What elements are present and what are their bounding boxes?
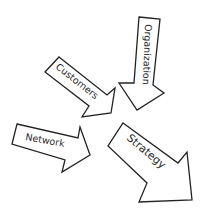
arrow-customers: Customers	[45, 57, 115, 117]
arrow-strategy: Strategy	[108, 123, 192, 202]
arrow-organization-shape	[119, 17, 164, 110]
arrow-organization: Organization	[119, 17, 164, 110]
arrow-network: Network	[12, 124, 90, 172]
arrow-network-shape	[12, 124, 90, 172]
arrow-organization-label: Organization	[141, 24, 154, 85]
arrows-diagram: Organization Customers Network Strategy	[0, 0, 202, 213]
